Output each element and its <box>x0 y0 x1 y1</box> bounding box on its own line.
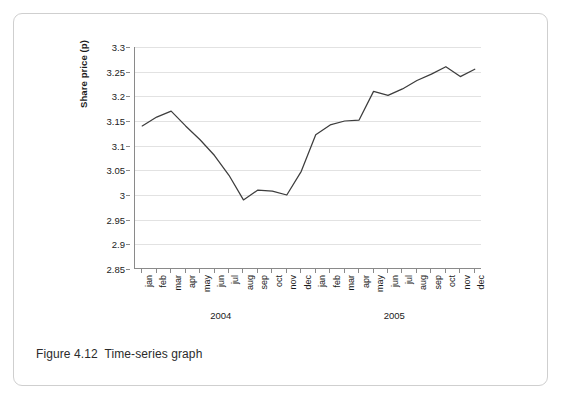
y-axis-tick-label: 2.95 <box>107 214 126 225</box>
x-axis-month-label: oct <box>448 275 457 287</box>
y-axis-tick-labels: 2.852.92.9533.053.13.153.23.253.3 <box>74 47 130 269</box>
x-axis-tick-mark <box>156 269 157 273</box>
share-price-line <box>142 67 475 200</box>
x-axis-tick-mark <box>344 269 345 273</box>
y-axis-tick-mark <box>126 96 130 97</box>
x-axis-tick-marks <box>134 269 481 274</box>
page-root: Share price (p) 2.852.92.9533.053.13.153… <box>0 0 561 399</box>
x-axis-month-label: dec <box>477 275 486 290</box>
x-axis-month-label: may <box>203 275 212 292</box>
y-axis-tick-mark <box>126 244 130 245</box>
y-axis-tick-mark <box>126 220 130 221</box>
plot-area <box>134 47 481 269</box>
x-axis-tick-mark <box>474 269 475 273</box>
x-axis-tick-mark <box>214 269 215 273</box>
x-axis-tick-mark <box>271 269 272 273</box>
x-axis-month-label: mar <box>174 275 183 291</box>
x-axis-month-label: jul <box>405 275 414 284</box>
x-axis-month-label: dec <box>304 275 313 290</box>
data-line-svg <box>135 47 482 269</box>
x-axis-month-label: mar <box>347 275 356 291</box>
x-axis-tick-mark <box>228 269 229 273</box>
figure-caption: Figure 4.12 Time-series graph <box>36 347 202 361</box>
x-axis-tick-mark <box>329 269 330 273</box>
x-axis-tick-mark <box>387 269 388 273</box>
x-axis-tick-mark <box>141 269 142 273</box>
x-axis-tick-mark <box>286 269 287 273</box>
y-axis-tick-mark <box>126 121 130 122</box>
x-axis-month-label: jun <box>217 275 226 287</box>
x-axis-tick-mark <box>242 269 243 273</box>
y-axis-tick-label: 3.05 <box>107 165 126 176</box>
x-axis-month-label: feb <box>159 275 168 288</box>
x-axis-month-label: sep <box>434 275 443 290</box>
x-axis-year-label: 2005 <box>384 310 405 321</box>
x-axis-month-label: oct <box>275 275 284 287</box>
x-axis-tick-mark <box>445 269 446 273</box>
y-axis-tick-mark <box>126 170 130 171</box>
x-axis-month-label: nov <box>289 275 298 290</box>
x-axis-month-label: nov <box>463 275 472 290</box>
y-axis-tick-mark <box>126 146 130 147</box>
x-axis-tick-mark <box>373 269 374 273</box>
x-axis-tick-mark <box>300 269 301 273</box>
x-axis-tick-mark <box>199 269 200 273</box>
x-axis-tick-mark <box>257 269 258 273</box>
x-axis-tick-mark <box>315 269 316 273</box>
figure-card: Share price (p) 2.852.92.9533.053.13.153… <box>13 13 548 386</box>
y-axis-tick-mark <box>126 47 130 48</box>
x-axis-month-labels: janfebmaraprmayjunjulaugsepoctnovdecjanf… <box>134 275 481 307</box>
y-axis-tick-label: 3.2 <box>112 91 125 102</box>
y-axis-tick-label: 3.25 <box>107 66 126 77</box>
y-axis-tick-label: 3.15 <box>107 116 126 127</box>
x-axis-tick-mark <box>358 269 359 273</box>
x-axis-tick-mark <box>416 269 417 273</box>
x-axis-month-label: jan <box>145 275 154 287</box>
x-axis-year-label: 2004 <box>210 310 231 321</box>
y-axis-tick-label: 3 <box>120 190 125 201</box>
x-axis-month-label: jun <box>391 275 400 287</box>
x-axis-year-labels: 20042005 <box>134 310 481 326</box>
time-series-chart: Share price (p) 2.852.92.9533.053.13.153… <box>14 14 549 334</box>
x-axis-month-label: apr <box>362 275 371 288</box>
y-axis-tick-label: 2.9 <box>112 239 125 250</box>
x-axis-month-label: apr <box>188 275 197 288</box>
y-axis-tick-mark <box>126 195 130 196</box>
x-axis-tick-mark <box>185 269 186 273</box>
y-axis-tick-label: 2.85 <box>107 264 126 275</box>
x-axis-month-label: aug <box>246 275 255 290</box>
y-axis-tick-mark <box>126 72 130 73</box>
x-axis-month-label: feb <box>333 275 342 288</box>
x-axis-month-label: may <box>376 275 385 292</box>
x-axis-month-label: jul <box>231 275 240 284</box>
y-axis-tick-mark <box>126 269 130 270</box>
y-axis-tick-label: 3.1 <box>112 140 125 151</box>
x-axis-tick-mark <box>459 269 460 273</box>
x-axis-tick-mark <box>170 269 171 273</box>
y-axis-tick-label: 3.3 <box>112 42 125 53</box>
x-axis-month-label: aug <box>419 275 428 290</box>
x-axis-month-label: sep <box>260 275 269 290</box>
x-axis-month-label: jan <box>318 275 327 287</box>
x-axis-tick-mark <box>401 269 402 273</box>
x-axis-tick-mark <box>430 269 431 273</box>
